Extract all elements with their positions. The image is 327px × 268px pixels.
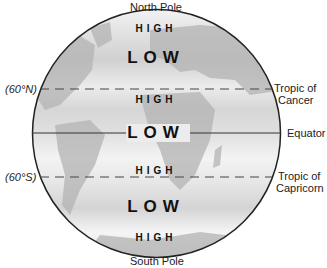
band-high-south-polar: HIGH: [0, 232, 312, 243]
band-low-subpolar-south: LOW: [0, 197, 312, 217]
north-pole-label: North Pole: [130, 1, 182, 13]
tropic-cancer-label-line2: Cancer: [278, 94, 313, 106]
band-high-north-polar: HIGH: [0, 23, 312, 34]
south-pole-label: South Pole: [130, 255, 184, 267]
tropic-capricorn-label-line1: Tropic of: [278, 170, 320, 182]
latitude-60s-label: (60°S): [5, 171, 36, 183]
band-low-equatorial: LOW: [0, 123, 312, 143]
band-low-subpolar-north: LOW: [0, 48, 312, 68]
tropic-cancer-label-line1: Tropic of: [274, 82, 316, 94]
band-high-subtropical-north: HIGH: [0, 94, 312, 105]
tropic-capricorn-label-line2: Capricorn: [276, 182, 324, 194]
latitude-60n-label: (60°N): [5, 83, 37, 95]
band-high-subtropical-south: HIGH: [0, 165, 312, 176]
equator-label: Equator: [287, 127, 326, 139]
